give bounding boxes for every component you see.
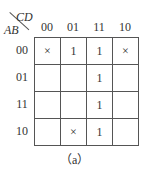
kmap-cell: 1 [87, 65, 113, 92]
kmap-cell [35, 65, 61, 92]
kmap-cell: 1 [87, 119, 113, 146]
column-header: 11 [86, 20, 112, 35]
kmap-cell: 1 [61, 38, 87, 65]
kmap-row: 1 [35, 65, 139, 92]
row-variable-label: AB [4, 23, 19, 38]
row-header: 10 [12, 118, 32, 145]
row-header: 01 [12, 64, 32, 91]
figure-caption: （a） [60, 150, 89, 168]
kmap-cell [61, 92, 87, 119]
kmap-cell: 1 [87, 92, 113, 119]
kmap-row: × 1 1 × [35, 38, 139, 65]
kmap-cell: × [35, 38, 61, 65]
kmap-row: × 1 [35, 119, 139, 146]
kmap-grid: × 1 1 × 1 1 × 1 [34, 37, 139, 146]
kmap-row: 1 [35, 92, 139, 119]
row-header: 11 [12, 91, 32, 118]
kmap-cell: × [61, 119, 87, 146]
kmap-cell [113, 65, 139, 92]
column-header: 10 [112, 20, 138, 35]
kmap-cell [35, 119, 61, 146]
column-header: 01 [60, 20, 86, 35]
kmap-cell: × [113, 38, 139, 65]
kmap-cell [35, 92, 61, 119]
kmap-cell [61, 65, 87, 92]
kmap-cell: 1 [87, 38, 113, 65]
column-header: 00 [34, 20, 60, 35]
kmap-cell [113, 119, 139, 146]
row-header: 00 [12, 37, 32, 64]
kmap-cell [113, 92, 139, 119]
